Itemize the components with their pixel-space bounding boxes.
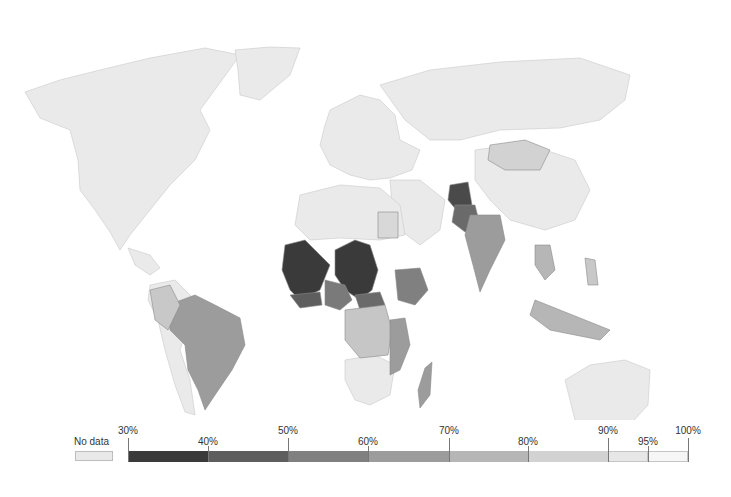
legend-label-100: 100% [675,425,701,436]
region-madagascar [418,362,432,408]
legend-tick-95 [648,446,649,462]
region-west-sahel [282,240,330,300]
legend-tick-100 [688,438,689,462]
legend-tick-30 [128,438,129,462]
world-map [0,0,731,420]
legend-bin-50-60 [288,451,368,462]
legend-tick-60 [368,446,369,462]
legend-bin-90-95 [608,451,648,462]
legend-label-90: 90% [598,425,618,436]
region-southern-africa [345,355,395,405]
region-indonesia [530,300,610,340]
legend-tick-70 [449,438,450,462]
region-russia [380,58,630,140]
legend-bin-40-50 [208,451,288,462]
legend-label-60: 60% [358,436,378,447]
region-philippines [585,258,598,285]
region-mongolia [488,140,550,170]
region-australia [565,360,650,420]
region-central-america [128,248,160,275]
legend-bin-95-100 [648,451,688,462]
no-data-label: No data [74,436,109,447]
legend-bin-70-80 [449,451,528,462]
region-southeast-asia [535,245,555,280]
region-coastal-west-africa [290,292,322,308]
legend-tick-90 [608,438,609,462]
region-india [465,215,505,292]
legend-label-30: 30% [118,425,138,436]
legend-bin-80-90 [528,451,608,462]
legend-tick-40 [208,446,209,462]
region-north-america [25,48,240,250]
region-central-africa [345,305,392,358]
legend-label-70: 70% [439,425,459,436]
region-ethiopia [395,268,428,305]
region-egypt [378,212,398,238]
legend-label-40: 40% [198,436,218,447]
legend-label-80: 80% [518,436,538,447]
legend-bin-30-40 [128,451,208,462]
region-greenland [235,47,300,100]
legend-label-50: 50% [278,425,298,436]
region-east-africa [390,318,410,375]
legend-label-95: 95% [638,436,658,447]
no-data-swatch [75,451,113,461]
legend-tick-50 [288,438,289,462]
legend-bin-60-70 [368,451,449,462]
legend-tick-80 [528,446,529,462]
